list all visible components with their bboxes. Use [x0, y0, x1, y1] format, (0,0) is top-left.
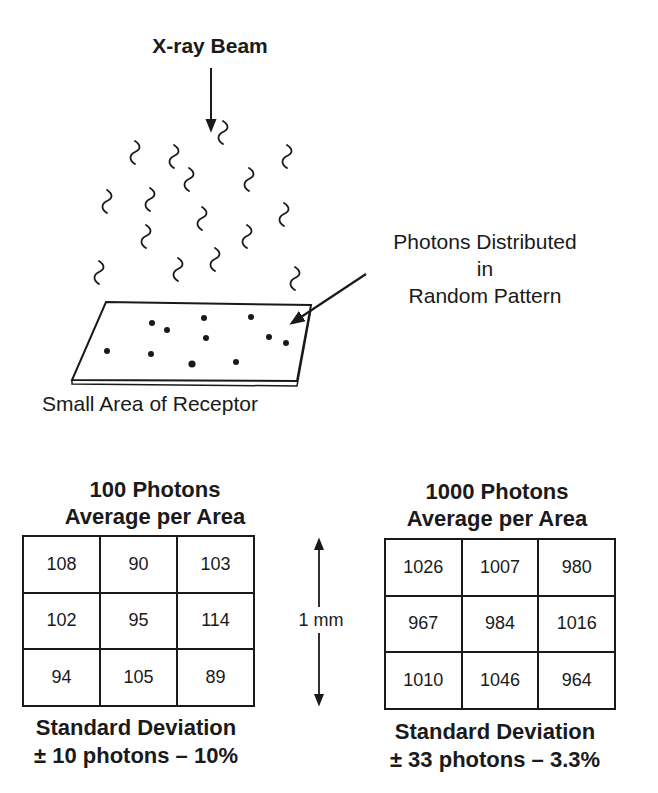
right-photon-grid: 1026 1007 980 967 984 1016 1010 1046 964: [384, 538, 616, 710]
grid-cell: 1007: [462, 539, 539, 596]
scale-label: 1 mm: [286, 610, 356, 631]
grid-cell: 1016: [538, 596, 615, 653]
photons-label-line-1: Photons Distributed: [330, 228, 640, 255]
left-footer-line-2: ± 10 photons – 10%: [0, 742, 272, 770]
photons-distributed-label: Photons Distributed in Random Pattern: [330, 228, 640, 309]
right-footer-line-2: ± 33 photons – 3.3%: [350, 746, 640, 774]
table-row: 94 105 89: [23, 649, 254, 706]
right-title-line-1: 1000 Photons: [372, 478, 622, 505]
receptor-plate: [72, 302, 311, 386]
grid-cell: 108: [23, 536, 100, 593]
grid-cell: 102: [23, 593, 100, 650]
left-footer-line-1: Standard Deviation: [0, 714, 272, 742]
right-panel-title: 1000 Photons Average per Area: [372, 478, 622, 532]
table-row: 1010 1046 964: [385, 652, 615, 709]
photon-wave-icons: [95, 121, 300, 290]
left-title-line-1: 100 Photons: [10, 476, 300, 503]
left-title-line-2: Average per Area: [10, 503, 300, 530]
left-panel-footer: Standard Deviation ± 10 photons – 10%: [0, 714, 272, 770]
photons-label-line-2: in: [330, 255, 640, 282]
right-panel-footer: Standard Deviation ± 33 photons – 3.3%: [350, 718, 640, 774]
grid-cell: 90: [100, 536, 177, 593]
grid-cell: 1046: [462, 652, 539, 709]
right-footer-line-1: Standard Deviation: [350, 718, 640, 746]
grid-cell: 1010: [385, 652, 462, 709]
grid-cell: 95: [100, 593, 177, 650]
grid-cell: 1026: [385, 539, 462, 596]
grid-cell: 984: [462, 596, 539, 653]
photons-label-line-3: Random Pattern: [330, 282, 640, 309]
table-row: 102 95 114: [23, 593, 254, 650]
left-panel-title: 100 Photons Average per Area: [10, 476, 300, 530]
grid-cell: 114: [177, 593, 254, 650]
receptor-label: Small Area of Receptor: [42, 392, 342, 416]
beam-label: X-ray Beam: [120, 34, 300, 58]
table-row: 1026 1007 980: [385, 539, 615, 596]
grid-cell: 980: [538, 539, 615, 596]
grid-cell: 964: [538, 652, 615, 709]
left-photon-grid: 108 90 103 102 95 114 94 105 89: [22, 535, 255, 707]
right-title-line-2: Average per Area: [372, 505, 622, 532]
grid-cell: 105: [100, 649, 177, 706]
grid-cell: 967: [385, 596, 462, 653]
grid-cell: 103: [177, 536, 254, 593]
table-row: 108 90 103: [23, 536, 254, 593]
grid-cell: 89: [177, 649, 254, 706]
table-row: 967 984 1016: [385, 596, 615, 653]
grid-cell: 94: [23, 649, 100, 706]
